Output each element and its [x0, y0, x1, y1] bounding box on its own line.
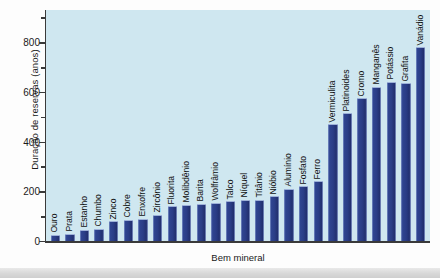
bar[interactable]: Chumbo — [94, 229, 103, 241]
bar-slot: Fosfato — [296, 10, 311, 241]
bar-slot: Potássio — [384, 10, 399, 241]
bar-slot: Talco — [223, 10, 238, 241]
bar-category-label: Enxofre — [138, 187, 147, 217]
bar[interactable]: Grafita — [401, 83, 410, 241]
bar-category-label: Barita — [197, 179, 206, 201]
bar[interactable]: Vermiculita — [328, 124, 337, 241]
x-axis-line — [45, 241, 430, 243]
y-tick-label: 0 — [0, 236, 40, 247]
bar-slot: Alumínio — [282, 10, 297, 241]
chart-figure: Duração de reservas (anos) 0200400600800… — [0, 0, 440, 278]
y-tick-major — [39, 142, 45, 143]
bar[interactable]: Fosfato — [299, 186, 308, 241]
bar-category-label: Ouro — [51, 214, 60, 233]
y-tick-label: 800 — [0, 37, 40, 48]
bar[interactable]: Cobre — [124, 220, 133, 241]
bar[interactable]: Prata — [65, 234, 74, 241]
bar[interactable]: Ferro — [314, 181, 323, 241]
bar-series: OuroPrataEstanhoChumboZincoCobreEnxofreZ… — [46, 10, 430, 241]
bar[interactable]: Potássio — [387, 82, 396, 241]
bar-category-label: Potássio — [387, 47, 396, 80]
y-tick-major — [39, 241, 45, 242]
bar[interactable]: Platinoides — [343, 113, 352, 241]
bar-slot: Cromo — [355, 10, 370, 241]
bar-category-label: Vanádio — [416, 14, 425, 45]
bar-slot: Zircônio — [150, 10, 165, 241]
bar-slot: Vanádio — [413, 10, 428, 241]
bar-slot: Vermiculita — [326, 10, 341, 241]
bar-category-label: Fluorita — [168, 176, 177, 205]
bar-category-label: Chumbo — [95, 194, 104, 226]
bar-slot: Enxofre — [136, 10, 151, 241]
y-tick-minor — [41, 67, 45, 68]
bar-slot: Níquel — [238, 10, 253, 241]
bar-category-label: Titânio — [255, 173, 264, 198]
bar-slot: Wolfrâmio — [209, 10, 224, 241]
bar-slot: Zinco — [106, 10, 121, 241]
bar-slot: Prata — [63, 10, 78, 241]
bar-category-label: Wolfrâmio — [211, 162, 220, 201]
bar-slot: Fluorita — [165, 10, 180, 241]
bar-slot: Manganês — [369, 10, 384, 241]
y-tick-major — [39, 191, 45, 192]
y-tick-label: 400 — [0, 136, 40, 147]
y-tick-label: 600 — [0, 86, 40, 97]
bar-category-label: Alumínio — [284, 153, 293, 186]
bar[interactable]: Cromo — [357, 98, 366, 241]
bar-category-label: Grafita — [401, 55, 410, 81]
bar-slot: Titânio — [253, 10, 268, 241]
bar[interactable]: Níquel — [241, 200, 250, 241]
bar-category-label: Vermiculita — [328, 80, 337, 122]
plot-area: OuroPrataEstanhoChumboZincoCobreEnxofreZ… — [46, 10, 430, 241]
bar-category-label: Estanho — [80, 196, 89, 228]
bar-slot: Ouro — [48, 10, 63, 241]
bar[interactable]: Barita — [197, 204, 206, 241]
x-axis-title: Bem mineral — [46, 252, 430, 263]
bar-slot: Barita — [194, 10, 209, 241]
y-axis-tick-labels: 0200400600800 — [0, 0, 40, 278]
bar-category-label: Cobre — [124, 194, 133, 217]
bar[interactable]: Zinco — [109, 221, 118, 241]
bar[interactable]: Enxofre — [138, 219, 147, 241]
bar[interactable]: Fluorita — [168, 206, 177, 241]
y-tick-minor — [41, 17, 45, 18]
bar-category-label: Prata — [65, 211, 74, 232]
bar-category-label: Talco — [226, 179, 235, 199]
bar-category-label: Cromo — [358, 70, 367, 96]
bar-slot: Ferro — [311, 10, 326, 241]
y-tick-minor — [41, 166, 45, 167]
bar[interactable]: Wolfrâmio — [211, 203, 220, 242]
bar[interactable]: Manganês — [372, 87, 381, 241]
y-tick-label: 200 — [0, 186, 40, 197]
bar-category-label: Zinco — [109, 198, 118, 219]
y-tick-minor — [41, 117, 45, 118]
bar[interactable]: Titânio — [255, 200, 264, 241]
bar-slot: Cobre — [121, 10, 136, 241]
y-tick-minor — [41, 216, 45, 217]
bar[interactable]: Ouro — [51, 235, 60, 241]
bar-category-label: Níquel — [241, 173, 250, 198]
bar[interactable]: Nióbio — [270, 196, 279, 241]
bar[interactable]: Vanádio — [416, 47, 425, 241]
bar-slot: Chumbo — [92, 10, 107, 241]
bar[interactable]: Zircônio — [153, 215, 162, 241]
bar[interactable]: Estanho — [80, 230, 89, 241]
bar-category-label: Molibdênio — [182, 161, 191, 203]
page-edge-artifact — [0, 268, 440, 278]
bar-category-label: Manganês — [372, 45, 381, 85]
bar-category-label: Fosfato — [299, 156, 308, 185]
bar-slot: Estanho — [77, 10, 92, 241]
bar-category-label: Platinoides — [343, 69, 352, 111]
bar[interactable]: Talco — [226, 201, 235, 241]
bar-category-label: Nióbio — [270, 170, 279, 194]
bar-slot: Grafita — [399, 10, 414, 241]
bar[interactable]: Molibdênio — [182, 205, 191, 241]
bar[interactable]: Alumínio — [284, 189, 293, 241]
bar-category-label: Zircônio — [153, 182, 162, 213]
bar-category-label: Ferro — [314, 159, 323, 180]
bar-slot: Molibdênio — [179, 10, 194, 241]
bar-slot: Platinoides — [340, 10, 355, 241]
bar-slot: Nióbio — [267, 10, 282, 241]
y-tick-major — [39, 42, 45, 43]
y-tick-major — [39, 92, 45, 93]
